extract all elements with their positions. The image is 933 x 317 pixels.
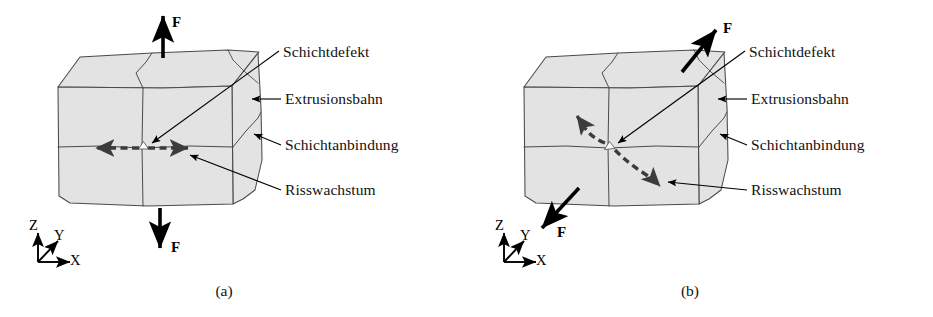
axis-label-z: Z bbox=[495, 218, 504, 233]
axis-label-x: X bbox=[70, 253, 80, 268]
panel-b: Schichtdefekt Extrusionsbahn Schichtanbi… bbox=[466, 0, 932, 317]
panel-caption-b: (b) bbox=[674, 283, 706, 299]
top-face bbox=[58, 50, 259, 88]
axis-label-y: Y bbox=[54, 228, 64, 243]
panel-b-graphic bbox=[466, 0, 932, 317]
panel-caption-a: (a) bbox=[208, 283, 240, 299]
callout-label-schichtanbindung: Schichtanbindung bbox=[285, 137, 399, 153]
panel-a: Schichtdefekt Extrusionsbahn Schichtanbi… bbox=[0, 0, 466, 317]
axis-y-line bbox=[504, 241, 524, 262]
callout-label-schichtdefekt: Schichtdefekt bbox=[749, 44, 836, 60]
axis-label-z: Z bbox=[29, 218, 38, 233]
axis-y-line bbox=[38, 241, 58, 262]
specimen-body bbox=[58, 50, 262, 206]
specimen-body bbox=[524, 50, 728, 206]
callout-label-risswachstum: Risswachstum bbox=[751, 182, 842, 198]
panel-a-graphic bbox=[0, 0, 466, 317]
force-label-down: F bbox=[171, 240, 180, 255]
figure-root: Schichtdefekt Extrusionsbahn Schichtanbi… bbox=[0, 0, 933, 317]
callout-label-extrusionsbahn: Extrusionsbahn bbox=[285, 91, 383, 107]
force-label-up-right: F bbox=[723, 21, 732, 36]
force-label-up: F bbox=[172, 15, 181, 30]
axis-label-x: X bbox=[536, 253, 546, 268]
callout-label-risswachstum: Risswachstum bbox=[285, 182, 376, 198]
callout-label-schichtanbindung: Schichtanbindung bbox=[751, 137, 865, 153]
force-label-down-left: F bbox=[557, 225, 566, 240]
axis-label-y: Y bbox=[520, 228, 530, 243]
callout-label-schichtdefekt: Schichtdefekt bbox=[283, 44, 370, 60]
callout-label-extrusionsbahn: Extrusionsbahn bbox=[751, 91, 849, 107]
